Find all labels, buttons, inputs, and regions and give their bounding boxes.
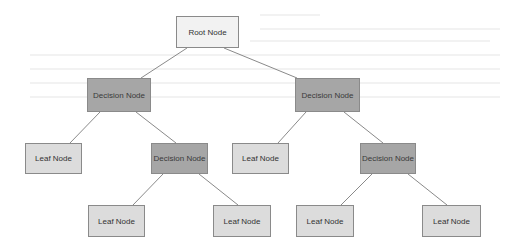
node-label: Leaf Node (307, 217, 344, 226)
node-label: Leaf Node (242, 154, 279, 163)
node-label: Decision Node (93, 91, 145, 100)
node-label: Leaf Node (98, 217, 135, 226)
node-label: Leaf Node (224, 217, 261, 226)
leaf-node: Leaf Node (422, 205, 481, 237)
leaf-node: Leaf Node (232, 143, 289, 174)
node-label: Decision Node (301, 91, 353, 100)
node-label: Leaf Node (35, 154, 72, 163)
node-label: Root Node (188, 28, 226, 37)
decision-node: Decision Node (360, 143, 416, 174)
node-label: Leaf Node (433, 217, 470, 226)
leaf-node: Leaf Node (296, 205, 354, 237)
decision-node: Decision Node (151, 143, 208, 174)
node-label: Decision Node (153, 154, 205, 163)
leaf-node: Leaf Node (25, 143, 82, 174)
leaf-node: Leaf Node (88, 205, 145, 237)
decision-node: Decision Node (87, 78, 151, 112)
root-node: Root Node (176, 16, 239, 48)
leaf-node: Leaf Node (213, 205, 271, 237)
decision-node: Decision Node (295, 78, 360, 112)
node-label: Decision Node (362, 154, 414, 163)
